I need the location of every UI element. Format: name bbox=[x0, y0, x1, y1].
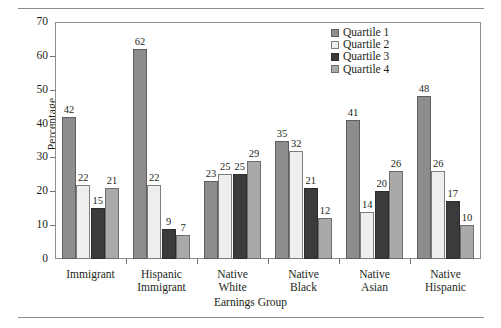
bar bbox=[204, 181, 218, 259]
bar bbox=[346, 120, 360, 259]
bar-value-label: 42 bbox=[58, 105, 80, 116]
x-group-label: Native Hispanic bbox=[401, 268, 490, 294]
bar-value-label: 22 bbox=[72, 173, 94, 184]
legend-item: Quartile 2 bbox=[331, 39, 389, 51]
bar-value-label: 22 bbox=[143, 173, 165, 184]
bar-value-label: 35 bbox=[271, 129, 293, 140]
bar-value-label: 21 bbox=[101, 176, 123, 187]
legend-swatch-icon bbox=[331, 53, 339, 61]
legend-item: Quartile 3 bbox=[331, 51, 389, 63]
legend-item: Quartile 4 bbox=[331, 64, 389, 76]
bar-value-label: 32 bbox=[285, 139, 307, 150]
x-group-separator-tick bbox=[268, 259, 269, 264]
bar-value-label: 7 bbox=[172, 223, 194, 234]
x-group-separator-tick bbox=[126, 259, 127, 264]
bar-value-label: 25 bbox=[229, 162, 251, 173]
bar-value-label: 26 bbox=[427, 159, 449, 170]
legend-item: Quartile 1 bbox=[331, 27, 389, 39]
bar bbox=[233, 174, 247, 259]
bar bbox=[417, 96, 431, 259]
x-axis-title: Earnings Group bbox=[0, 296, 501, 308]
bar bbox=[318, 218, 332, 259]
bar-value-label: 15 bbox=[87, 196, 109, 207]
bar-value-label: 21 bbox=[300, 176, 322, 187]
y-tick-label: 40 bbox=[18, 118, 48, 130]
y-tick-mark bbox=[50, 157, 55, 158]
y-tick-mark bbox=[50, 90, 55, 91]
bar-value-label: 26 bbox=[385, 159, 407, 170]
legend-swatch-icon bbox=[331, 41, 339, 49]
y-tick-label: 20 bbox=[18, 185, 48, 197]
chart-legend: Quartile 1Quartile 2Quartile 3Quartile 4 bbox=[331, 27, 389, 76]
bar-value-label: 10 bbox=[456, 213, 478, 224]
bar bbox=[218, 174, 232, 259]
legend-swatch-icon bbox=[331, 29, 339, 37]
bar bbox=[431, 171, 445, 259]
y-tick-label: 50 bbox=[18, 84, 48, 96]
bar bbox=[304, 188, 318, 259]
bar bbox=[91, 208, 105, 259]
bar bbox=[62, 117, 76, 259]
legend-item-label: Quartile 2 bbox=[343, 39, 389, 51]
bar-value-label: 12 bbox=[314, 206, 336, 217]
bar-value-label: 14 bbox=[356, 200, 378, 211]
x-group-separator-tick bbox=[410, 259, 411, 264]
bar bbox=[247, 161, 261, 259]
x-group-separator-tick bbox=[197, 259, 198, 264]
x-group-separator-tick bbox=[339, 259, 340, 264]
y-tick-mark bbox=[50, 225, 55, 226]
y-tick-label: 60 bbox=[18, 50, 48, 62]
bar bbox=[289, 151, 303, 259]
legend-item-label: Quartile 3 bbox=[343, 51, 389, 63]
y-tick-label: 70 bbox=[18, 16, 48, 28]
bar bbox=[446, 201, 460, 259]
bar bbox=[133, 49, 147, 259]
y-tick-mark bbox=[50, 191, 55, 192]
y-tick-mark bbox=[50, 56, 55, 57]
y-tick-label: 30 bbox=[18, 151, 48, 163]
y-tick-mark bbox=[50, 124, 55, 125]
bar bbox=[176, 235, 190, 259]
bar bbox=[360, 212, 374, 259]
bar-value-label: 17 bbox=[442, 189, 464, 200]
bar-value-label: 20 bbox=[371, 179, 393, 190]
bar-value-label: 62 bbox=[129, 37, 151, 48]
legend-item-label: Quartile 1 bbox=[343, 27, 389, 39]
y-tick-label: 10 bbox=[18, 219, 48, 231]
bar-chart-figure: Percentage 010203040506070 ImmigrantHisp… bbox=[0, 0, 501, 328]
legend-swatch-icon bbox=[331, 65, 339, 73]
bar bbox=[460, 225, 474, 259]
bar bbox=[275, 141, 289, 260]
bar-value-label: 48 bbox=[413, 84, 435, 95]
legend-item-label: Quartile 4 bbox=[343, 64, 389, 76]
bar-value-label: 29 bbox=[243, 149, 265, 160]
y-tick-label: 0 bbox=[18, 253, 48, 265]
bar-value-label: 41 bbox=[342, 108, 364, 119]
